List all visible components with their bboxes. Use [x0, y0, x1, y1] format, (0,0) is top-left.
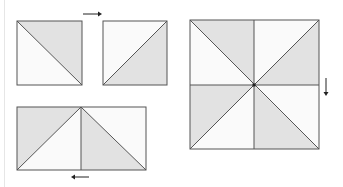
quilt-diagram — [0, 0, 343, 187]
hst-unit-1 — [17, 21, 82, 85]
hst-pair-unit — [17, 107, 146, 170]
arrow-right-icon — [83, 12, 102, 17]
pinwheel-block — [190, 20, 319, 149]
hst-unit-2 — [103, 21, 167, 85]
arrow-down-icon — [324, 78, 329, 96]
arrow-left-icon — [71, 175, 89, 180]
